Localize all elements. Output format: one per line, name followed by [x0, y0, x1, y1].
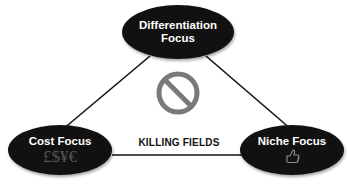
currency-symbols-icon: £$¥€ — [43, 148, 77, 166]
killing-fields-label: KILLING FIELDS — [120, 137, 238, 148]
line-top-left — [62, 56, 150, 130]
thumbs-up-icon — [284, 148, 300, 166]
node-label-line2: Focus — [161, 32, 195, 45]
prohibition-icon — [159, 74, 197, 112]
differentiation-focus-node: Differentiation Focus — [122, 5, 234, 59]
niche-focus-node: Niche Focus — [240, 125, 344, 175]
cost-focus-node: Cost Focus £$¥€ — [8, 125, 112, 175]
node-label: Cost Focus — [29, 135, 92, 148]
node-label-line1: Differentiation — [139, 19, 217, 32]
line-top-right — [206, 56, 292, 130]
node-label: Niche Focus — [258, 135, 326, 148]
